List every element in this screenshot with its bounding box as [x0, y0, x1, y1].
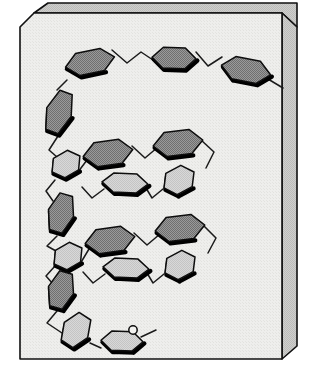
atom-label-group	[129, 326, 137, 334]
molecular-structure-diagram	[0, 0, 322, 376]
card-right-side	[282, 13, 297, 359]
atom-circle-o	[129, 326, 137, 334]
figure-root	[0, 0, 322, 376]
